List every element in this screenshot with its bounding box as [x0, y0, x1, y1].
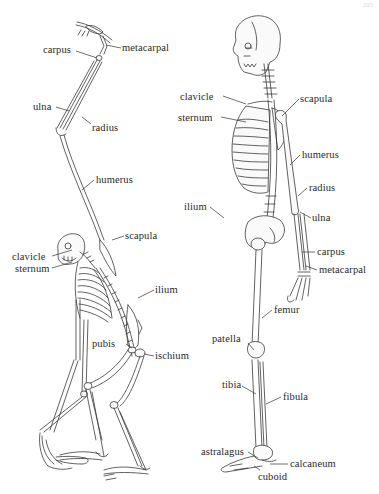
- leader-lines: [52, 45, 317, 470]
- label-ape-pubis: pubis: [92, 339, 115, 350]
- label-human-ulna: ulna: [312, 213, 330, 224]
- skeleton-comparison-figure: 205: [0, 0, 379, 494]
- label-human-calcaneum: calcaneum: [290, 459, 336, 470]
- label-ape-ulna: ulna: [33, 102, 51, 113]
- label-ape-sternum: sternum: [15, 264, 50, 275]
- label-human-astralagus: astralagus: [201, 447, 244, 458]
- label-ape-clavicle: clavicle: [12, 252, 45, 263]
- label-human-ilium: ilium: [184, 202, 207, 213]
- label-human-radius: radius: [309, 183, 335, 194]
- human-skeleton-drawing: [221, 16, 310, 472]
- label-ape-metacarpal: metacarpal: [122, 43, 169, 54]
- label-human-metacarpal: metacarpal: [319, 265, 366, 276]
- ape-skeleton-drawing: [39, 22, 150, 480]
- label-human-scapula: scapula: [300, 94, 332, 105]
- label-human-sternum: sternum: [178, 113, 213, 124]
- label-human-cuboid: cuboid: [258, 472, 287, 483]
- label-ape-ischium: ischium: [155, 351, 189, 362]
- label-human-fibula: fibula: [283, 392, 308, 403]
- label-human-patella: patella: [212, 334, 241, 345]
- label-human-humerus: humerus: [302, 150, 339, 161]
- label-ape-humerus: humerus: [96, 175, 133, 186]
- label-human-femur: femur: [274, 305, 300, 316]
- label-ape-scapula: scapula: [125, 231, 157, 242]
- label-ape-radius: radius: [92, 123, 118, 134]
- label-human-tibia: tibia: [222, 380, 241, 391]
- label-human-clavicle: clavicle: [180, 92, 213, 103]
- label-human-carpus: carpus: [317, 247, 345, 258]
- label-ape-ilium: ilium: [155, 285, 178, 296]
- label-ape-carpus: carpus: [43, 45, 71, 56]
